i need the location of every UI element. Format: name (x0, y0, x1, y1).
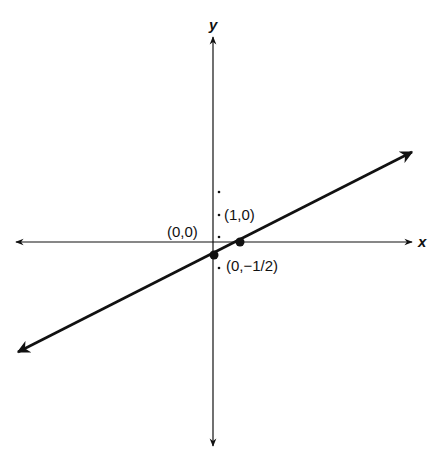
tick-dot (218, 191, 221, 194)
tick-dot (218, 236, 221, 239)
x-axis-label: x (417, 233, 427, 250)
y-axis-label: y (208, 16, 218, 33)
label-x-intercept: (1,0) (224, 206, 255, 223)
tick-dot (218, 267, 221, 270)
point-x-intercept (236, 238, 245, 247)
coordinate-diagram: y x (0,0) (1,0) (0,−1/2) (0, 0, 435, 459)
label-origin: (0,0) (167, 223, 198, 240)
tick-dot (218, 214, 221, 217)
label-y-intercept: (0,−1/2) (226, 257, 278, 274)
point-y-intercept (210, 251, 219, 260)
